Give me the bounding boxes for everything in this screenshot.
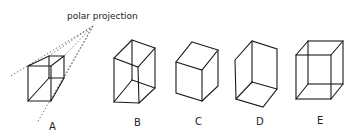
figure-label-e: E [317,115,323,126]
figure-e: E [296,41,343,126]
cube-b-top [114,40,155,67]
figure-label-d: D [256,116,264,127]
cube-c-front [176,62,202,101]
figure-d: D [235,41,277,127]
cube-c-side [202,50,218,101]
figure-b: B [114,40,155,128]
cube-perception-diagram: polar projection A B [0,0,351,134]
polar-projection-label: polar projection [67,11,138,21]
cube-a-inner-edge [28,78,49,101]
figure-label-b: B [134,117,141,128]
cube-b-front [114,58,139,103]
cube-b-inner-edge [132,80,155,88]
cube-b-inner-edge [114,80,132,102]
cube-e-connector [331,84,343,99]
cube-e-connector [331,41,343,55]
figure-a: A [9,26,93,132]
projection-line [37,26,93,123]
figure-label-a: A [49,121,56,132]
cube-a-front [28,66,51,101]
cube-a-top [28,56,64,66]
figure-c: C [176,42,218,127]
cube-e-connector [296,41,308,55]
projection-line [49,26,93,56]
cube-d-inner-edge [236,82,252,99]
cube-d-outline [235,41,277,107]
cube-a [28,56,64,101]
figure-label-c: C [195,116,202,127]
cube-e-connector [296,84,308,99]
cube-d-inner-edge [252,82,277,89]
cube-c-top [176,42,218,70]
